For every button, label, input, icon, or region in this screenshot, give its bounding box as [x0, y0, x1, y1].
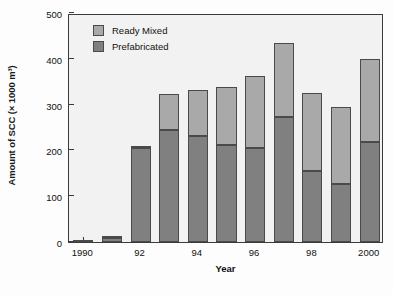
bar-segment-prefabricated — [274, 117, 294, 242]
x-tick-label: 2000 — [358, 247, 379, 258]
bar-segment-prefabricated — [245, 148, 265, 242]
y-tick-label: 100 — [14, 192, 62, 203]
bar-1996 — [245, 76, 265, 242]
bar-segment-prefabricated — [188, 136, 208, 242]
legend-item-ready-mixed: Ready Mixed — [93, 25, 169, 36]
x-axis-title: Year — [68, 263, 383, 274]
y-tick — [69, 12, 74, 13]
ready-mixed-swatch — [93, 25, 104, 36]
y-tick-label: 200 — [14, 146, 62, 157]
bar-2000 — [360, 59, 380, 242]
bar-segment-ready-mixed — [274, 43, 294, 116]
y-axis-title: Amount of SCC (× 1000 m³) — [0, 0, 22, 250]
bar-1995 — [216, 87, 236, 242]
bar-segment-ready-mixed — [360, 59, 380, 142]
bar-1997 — [274, 43, 294, 242]
bar-segment-ready-mixed — [216, 87, 236, 145]
chart-figure: Amount of SCC (× 1000 m³) Ready Mixed Pr… — [0, 0, 393, 295]
bar-segment-ready-mixed — [159, 94, 179, 130]
bar-segment-prefabricated — [302, 171, 322, 242]
bar-segment-ready-mixed — [331, 107, 351, 184]
bar-segment-prefabricated — [73, 240, 93, 242]
y-tick-label: 300 — [14, 100, 62, 111]
x-tick-label: 96 — [249, 247, 260, 258]
bar-segment-prefabricated — [360, 142, 380, 242]
bar-1993 — [159, 94, 179, 242]
bar-segment-ready-mixed — [245, 76, 265, 147]
x-tick-label: 92 — [134, 247, 145, 258]
prefabricated-swatch — [93, 41, 104, 52]
legend-label-ready-mixed: Ready Mixed — [112, 25, 167, 36]
bar-1990 — [73, 240, 93, 242]
bar-segment-prefabricated — [216, 145, 236, 242]
bar-1994 — [188, 90, 208, 242]
y-tick — [69, 58, 74, 59]
plot-area: Ready Mixed Prefabricated — [68, 14, 383, 243]
bar-segment-prefabricated — [159, 130, 179, 242]
bar-segment-ready-mixed — [302, 93, 322, 172]
bar-1999 — [331, 107, 351, 242]
chart-legend: Ready Mixed Prefabricated — [93, 25, 169, 57]
x-tick-label: 98 — [306, 247, 317, 258]
bar-segment-ready-mixed — [188, 90, 208, 135]
y-tick — [69, 195, 74, 196]
y-tick — [69, 104, 74, 105]
bar-segment-prefabricated — [131, 148, 151, 242]
y-tick — [69, 149, 74, 150]
bar-segment-prefabricated — [331, 184, 351, 242]
legend-item-prefabricated: Prefabricated — [93, 41, 169, 52]
y-tick-label: 0 — [14, 238, 62, 249]
y-tick-label: 400 — [14, 54, 62, 65]
x-tick-label: 1990 — [72, 247, 93, 258]
x-tick-label: 94 — [192, 247, 203, 258]
bar-1998 — [302, 93, 322, 242]
bar-segment-prefabricated — [102, 238, 122, 242]
bar-1992 — [131, 146, 151, 242]
legend-label-prefabricated: Prefabricated — [112, 41, 169, 52]
y-axis-title-text: Amount of SCC (× 1000 m³) — [6, 65, 17, 185]
bar-1991 — [102, 237, 122, 242]
y-tick-label: 500 — [14, 9, 62, 20]
